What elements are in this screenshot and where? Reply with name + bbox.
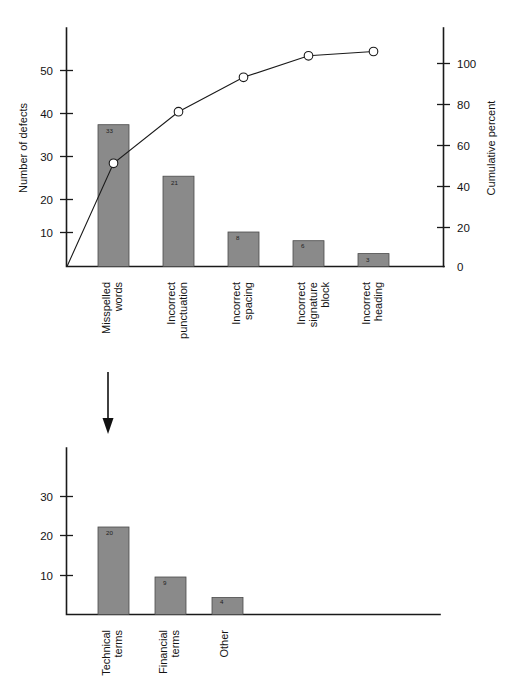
breakdown-bars: 20 9 4 — [98, 527, 243, 615]
category-label-line: Incorrect — [165, 282, 177, 325]
cumulative-markers — [109, 47, 378, 167]
category-label-line: spacing — [242, 282, 254, 320]
bar-other[interactable] — [212, 598, 243, 615]
bar-value-label: 4 — [220, 598, 224, 605]
category-label-line: Incorrect — [295, 282, 307, 325]
category-label-line: Other — [218, 630, 230, 658]
bar-value-label: 3 — [366, 256, 370, 263]
category-label-line: Misspelled — [100, 282, 112, 334]
bar-value-label: 6 — [301, 242, 305, 249]
breakdown-chart: 30 20 10 20 9 4 Technical terms Financia… — [40, 448, 440, 676]
bar-incorrect-signature-block[interactable] — [293, 241, 324, 267]
cumulative-marker[interactable] — [109, 159, 118, 168]
pareto-chart: 50 40 30 20 10 Number of defects 100 80 … — [17, 28, 497, 339]
ytick-label: 40 — [40, 108, 53, 120]
category-label-line: Financial — [157, 630, 169, 674]
category-label-line: Incorrect — [230, 282, 242, 325]
ytick-label: 30 — [40, 491, 53, 503]
pareto-ylabel: Number of defects — [17, 103, 29, 193]
ytick-label: 20 — [40, 194, 53, 206]
ytick-label: 10 — [40, 227, 53, 239]
y2tick-label: 60 — [457, 140, 470, 152]
category-label-line: terms — [112, 630, 124, 658]
category-label-line: signature — [307, 282, 319, 327]
ytick-label: 30 — [40, 151, 53, 163]
drilldown-arrow-icon — [103, 372, 114, 434]
cumulative-marker[interactable] — [304, 52, 313, 61]
category-label-line: punctuation — [177, 282, 189, 339]
bar-value-label: 21 — [171, 179, 178, 186]
breakdown-category-labels: Technical terms Financial terms Other — [100, 630, 230, 676]
y2tick-label: 20 — [457, 222, 470, 234]
category-label-line: words — [112, 282, 124, 313]
y2tick-label: 40 — [457, 181, 470, 193]
category-label-line: Technical — [100, 630, 112, 676]
y2tick-label: 100 — [457, 58, 476, 70]
category-label-line: Incorrect — [360, 282, 372, 325]
bar-incorrect-punctuation[interactable] — [163, 176, 194, 266]
breakdown-ticks: 30 20 10 — [40, 491, 73, 582]
bar-misspelled-words[interactable] — [98, 125, 129, 267]
bar-incorrect-spacing[interactable] — [228, 232, 259, 267]
bar-technical-terms[interactable] — [98, 527, 129, 615]
ytick-label: 50 — [40, 65, 53, 77]
bar-financial-terms[interactable] — [155, 577, 186, 615]
ytick-label: 10 — [40, 570, 53, 582]
pareto-left-ticks: 50 40 30 20 10 — [40, 65, 73, 239]
category-label-line: block — [319, 282, 331, 308]
bar-value-label: 33 — [106, 127, 113, 134]
bar-incorrect-heading[interactable] — [358, 254, 389, 267]
cumulative-marker[interactable] — [174, 107, 183, 116]
cumulative-marker[interactable] — [369, 47, 378, 56]
bar-value-label: 9 — [163, 579, 167, 586]
pareto-figure: 50 40 30 20 10 Number of defects 100 80 … — [0, 0, 515, 699]
pareto-category-labels: Misspelled words Incorrect punctuation I… — [100, 282, 384, 339]
cumulative-marker[interactable] — [239, 73, 248, 82]
pareto-y2label: Cumulative percent — [485, 101, 497, 196]
pareto-bars: 33 21 8 6 3 — [98, 125, 389, 267]
bar-value-label: 20 — [106, 529, 113, 536]
ytick-label: 20 — [40, 530, 53, 542]
bar-value-label: 8 — [236, 234, 240, 241]
y2tick-label: 0 — [457, 261, 463, 273]
y2tick-label: 80 — [457, 99, 470, 111]
category-label-line: terms — [169, 630, 181, 658]
category-label-line: heading — [372, 282, 384, 321]
